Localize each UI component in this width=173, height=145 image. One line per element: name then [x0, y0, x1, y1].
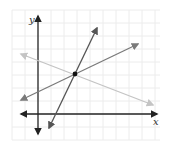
coordinate-plane-figure: y x: [0, 0, 173, 145]
grid: [12, 10, 160, 140]
y-axis-label: y: [28, 14, 35, 25]
intersection-point: [73, 72, 78, 77]
x-axis-label: x: [153, 116, 159, 127]
